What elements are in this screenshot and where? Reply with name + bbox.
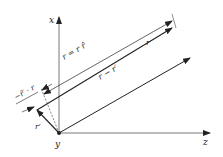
z-axis-label: z [202,137,208,147]
diagram-svg: x z y r = r r̂ r r − r′ r′ −r̂′ · r [0,0,223,157]
r-minus-rprime-label: r − r′ [97,63,120,82]
x-axis-label: x [49,15,54,25]
r-definition-label: r = r r̂ [61,40,89,61]
unit-direction-vector [59,58,190,133]
projection-label: −r̂′ · r [13,83,37,102]
end-tick [172,14,176,28]
r-label: r [146,38,151,47]
vector-diagram: x z y r = r r̂ r r − r′ r′ −r̂′ · r [0,0,223,157]
projection-arrow-lower [22,107,34,112]
projection-arrow-upper [42,84,52,90]
r-prime-label: r′ [35,122,41,131]
projection-dashed-line [41,88,59,133]
y-axis-label: y [54,139,61,149]
